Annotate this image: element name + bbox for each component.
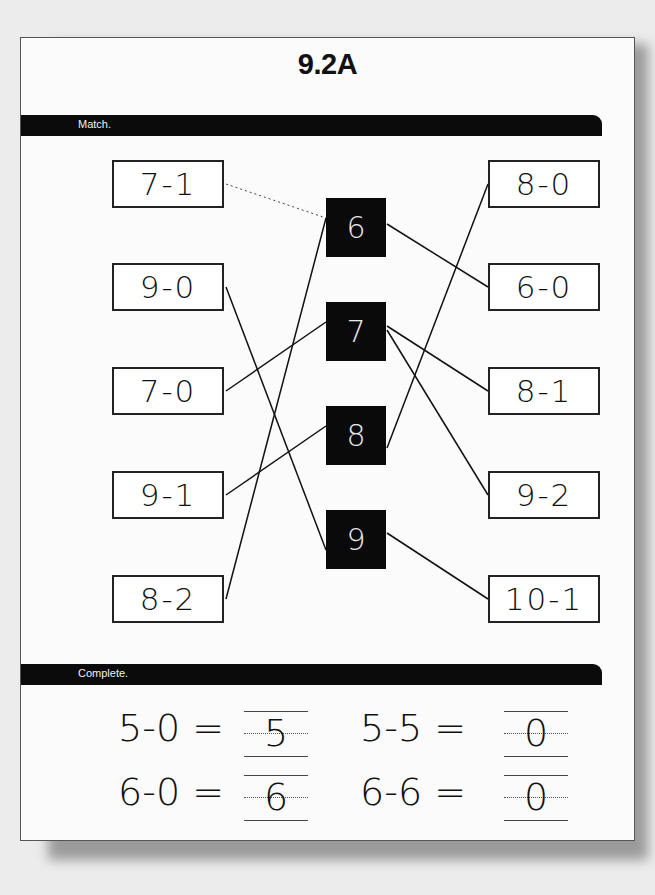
equation-text: 5-0 =	[118, 706, 224, 750]
connector-9-0-to-9	[226, 287, 326, 550]
answer-value: 5	[244, 710, 308, 756]
worksheet-page: 9.2A Match. 7-1 9-0 7-0 9-1 8-2 6 7 8 9 …	[20, 37, 635, 841]
complete-section-label: Complete.	[78, 667, 128, 679]
equation-text: 6-0 =	[118, 770, 224, 814]
connector-6-to-6-0	[387, 224, 488, 287]
connector-9-1-to-8	[226, 426, 326, 495]
equation-text: 6-6 =	[360, 770, 466, 814]
left-expression-box[interactable]: 7-0	[112, 367, 224, 415]
answer-box[interactable]: 6	[326, 198, 386, 257]
left-expression-box[interactable]: 9-1	[112, 471, 224, 519]
answer-line[interactable]: 5	[244, 711, 308, 757]
left-expression-box[interactable]: 8-2	[112, 575, 224, 623]
connector-8-2-to-6	[226, 218, 326, 599]
answer-box[interactable]: 9	[326, 510, 386, 569]
connector-7-0-to-7	[226, 322, 326, 391]
answer-value: 0	[504, 710, 568, 756]
answer-line[interactable]: 6	[244, 775, 308, 821]
right-expression-box[interactable]: 9-2	[488, 471, 600, 519]
right-expression-box[interactable]: 10-1	[488, 575, 600, 623]
answer-box[interactable]: 8	[326, 406, 386, 465]
right-expression-box[interactable]: 6-0	[488, 263, 600, 311]
answer-line[interactable]: 0	[504, 775, 568, 821]
right-expression-box[interactable]: 8-0	[488, 160, 600, 208]
right-expression-box[interactable]: 8-1	[488, 367, 600, 415]
answer-value: 0	[504, 774, 568, 820]
connector-7-to-9-2	[387, 330, 488, 495]
connector-7-1-to-6	[226, 184, 326, 218]
connector-8-to-8-0	[387, 184, 488, 448]
equation-text: 5-5 =	[360, 706, 466, 750]
left-expression-box[interactable]: 7-1	[112, 160, 224, 208]
connector-9-to-10-1	[387, 533, 488, 599]
complete-section-header: Complete.	[21, 664, 602, 685]
answer-line[interactable]: 0	[504, 711, 568, 757]
left-expression-box[interactable]: 9-0	[112, 263, 224, 311]
connector-7-to-8-1	[387, 326, 488, 391]
answer-value: 6	[244, 774, 308, 820]
answer-box[interactable]: 7	[326, 302, 386, 361]
